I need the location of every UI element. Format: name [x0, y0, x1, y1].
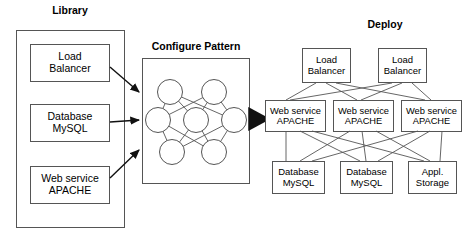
pattern-node	[184, 108, 209, 133]
deploy-box-web-service-2[interactable]	[334, 101, 394, 132]
architecture-diagram: Library Configure Pattern Deploy Load Ba…	[0, 0, 467, 245]
pattern-node	[202, 80, 227, 105]
deploy-links-lb-to-web	[286, 83, 431, 100]
deploy-box-load-balancer-1[interactable]	[303, 49, 351, 83]
deploy-box-load-balancer-2[interactable]	[379, 49, 427, 83]
pattern-node	[146, 108, 171, 133]
deploy-box-appl-storage[interactable]	[409, 162, 457, 194]
deploy-box-database-1[interactable]	[273, 162, 325, 194]
library-box-web-service[interactable]	[31, 167, 110, 204]
pattern-node	[202, 140, 227, 165]
diagram-vector-layer	[0, 0, 467, 245]
pattern-node	[160, 140, 185, 165]
deploy-box-web-service-3[interactable]	[402, 101, 462, 132]
library-title: Library	[24, 4, 116, 16]
library-box-load-balancer[interactable]	[31, 45, 110, 82]
deploy-links-web-to-storage	[286, 131, 442, 161]
deploy-box-database-2[interactable]	[341, 162, 393, 194]
arrow-database-to-pattern	[110, 120, 139, 122]
deploy-title: Deploy	[340, 18, 430, 30]
pattern-node	[158, 80, 183, 105]
pattern-node	[222, 108, 247, 133]
library-box-database-mysql[interactable]	[31, 105, 110, 142]
configure-pattern-title: Configure Pattern	[142, 40, 250, 52]
deploy-box-web-service-1[interactable]	[266, 101, 326, 132]
